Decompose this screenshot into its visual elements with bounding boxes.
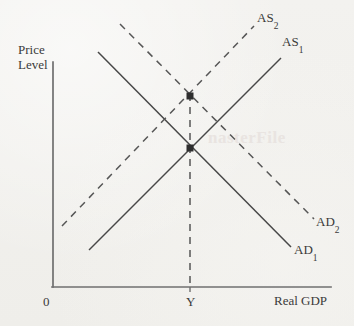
curve-label-ad2-text: AD [316, 214, 335, 229]
as-ad-figure: nasterFile AS2 AS1 AD2 AD1 Pric [0, 0, 354, 326]
curve-ad1 [98, 52, 291, 247]
origin-label: 0 [43, 295, 50, 308]
x-axis-title: Real GDP [274, 293, 327, 308]
curve-label-ad1: AD1 [294, 243, 318, 256]
equilibrium-point-upper [187, 93, 194, 100]
y-axis-title: Price Level [18, 42, 48, 72]
curve-label-as1-sub: 1 [299, 45, 304, 55]
curve-label-as2-text: AS [257, 10, 274, 25]
x-tick-label-y: Y [186, 295, 195, 308]
y-axis-title-line2: Level [18, 57, 48, 72]
curve-label-as1: AS1 [282, 35, 303, 48]
curve-label-ad2: AD2 [316, 215, 340, 228]
y-axis-title-line1: Price [18, 42, 48, 57]
curve-label-ad1-text: AD [294, 242, 313, 257]
curve-label-as2-sub: 2 [274, 21, 279, 31]
curve-label-as2: AS2 [257, 11, 278, 24]
curve-label-as1-text: AS [282, 34, 299, 49]
equilibrium-point-lower [187, 145, 194, 152]
curve-label-ad2-sub: 2 [335, 225, 340, 235]
curve-as1 [89, 58, 281, 250]
curve-as2 [62, 26, 254, 226]
curve-label-ad1-sub: 1 [313, 253, 318, 263]
